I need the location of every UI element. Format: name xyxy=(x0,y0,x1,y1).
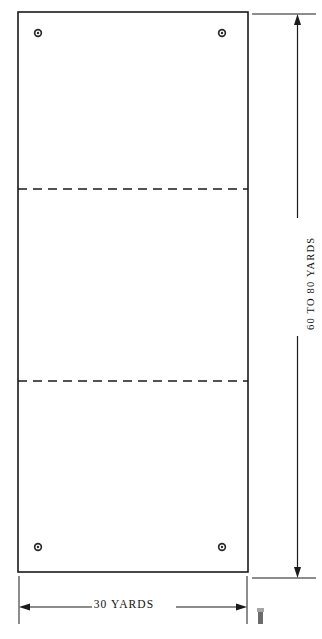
height-dimension-label: 60 TO 80 YARDS xyxy=(305,237,316,330)
vertical-dim-arrowhead-top xyxy=(294,14,301,25)
field-diagram-canvas xyxy=(0,0,322,639)
corner-marker-top-right xyxy=(218,29,226,37)
width-dimension-label: 30 YARDS xyxy=(0,598,248,610)
corner-marker-bottom-left xyxy=(34,543,42,551)
corner-marker-bottom-right xyxy=(218,543,226,551)
vertical-dim-arrowhead-bottom xyxy=(294,567,301,578)
corner-marker-top-left xyxy=(34,29,42,37)
field-diagram-container: 30 YARDS 60 TO 80 YARDS xyxy=(0,0,322,639)
scan-artifact-mark xyxy=(258,612,263,624)
field-boundary-rect xyxy=(18,12,248,572)
